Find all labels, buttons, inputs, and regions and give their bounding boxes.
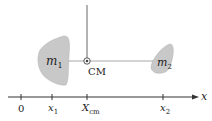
tick-label-origin: 0 [18, 103, 24, 114]
center-of-mass-label: CM [88, 66, 106, 77]
tick-label-x1: x1 [48, 102, 58, 116]
tick-label-x2: x2 [160, 102, 170, 116]
center-of-mass-diagram: m1 m2 CM x 0 x1 Xcm x2 [0, 0, 212, 121]
x-axis-label: x [201, 90, 208, 103]
x-axis-arrow-icon [192, 95, 199, 100]
tick-label-xcm: Xcm [81, 102, 100, 116]
center-of-mass-marker [84, 58, 90, 64]
